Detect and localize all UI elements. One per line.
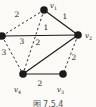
- figure-canvas: 21133222v1v2v3v4 图 7.5.4: [0, 0, 96, 107]
- edge-weight-v4-v3: 2: [38, 79, 43, 88]
- edge-v5-v1: [2, 10, 44, 36]
- vertex-v5: [0, 32, 6, 40]
- vertex-label-v3: v3: [57, 86, 64, 95]
- figure-caption: 图 7.5.4: [0, 98, 96, 107]
- edge-v1-v2: [44, 10, 78, 35]
- edge-weight-v5-v4: 3: [2, 48, 7, 57]
- edge-weight-v5-v1: 2: [15, 10, 20, 19]
- graph-svg: 21133222v1v2v3v4: [0, 0, 96, 107]
- edge-v1-v4: [23, 10, 44, 74]
- vertex-v2: [74, 31, 82, 39]
- vertex-v3: [59, 70, 67, 78]
- edge-weight-v2-v4: 2: [36, 38, 41, 47]
- edge-weight-v2-v3: 2: [72, 53, 77, 62]
- edge-v2-v4: [23, 35, 78, 74]
- vertex-v4: [19, 70, 27, 78]
- vertex-label-v4: v4: [14, 86, 21, 95]
- edge-v5-v2: [2, 35, 78, 36]
- vertex-label-v2: v2: [85, 32, 92, 41]
- vertex-v1: [40, 6, 48, 14]
- edge-weight-v5-v2: 1: [44, 23, 49, 32]
- edge-weight-v1-v2: 1: [63, 12, 68, 21]
- vertex-label-v1: v1: [50, 2, 57, 11]
- edge-weight-v1-v4: 3: [20, 37, 25, 46]
